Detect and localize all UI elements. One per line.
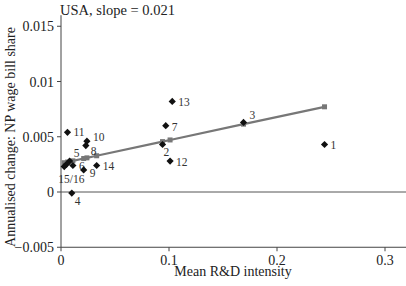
y-tick-label: 0.01 <box>30 75 55 90</box>
data-point-label: 7 <box>172 121 178 133</box>
data-point-label: 14 <box>103 160 115 172</box>
data-point-label: 4 <box>75 195 81 207</box>
data-point-label: 2 <box>164 146 170 158</box>
plot-area: −0.00500.0050.010.01500.10.20.3123456789… <box>0 0 406 286</box>
y-tick-label: 0.015 <box>23 19 55 34</box>
fitted-square-marker <box>322 104 327 109</box>
data-point-label: 10 <box>93 131 105 143</box>
y-tick-label: 0.005 <box>23 130 55 145</box>
data-point-diamond <box>321 141 328 148</box>
data-point-diamond <box>64 129 71 136</box>
x-axis-label: Mean R&D intensity <box>60 264 406 280</box>
y-tick-label: −0.005 <box>15 240 54 255</box>
fitted-square-marker <box>84 155 89 160</box>
data-point-label: 9 <box>90 167 96 179</box>
data-point-label: 3 <box>250 109 256 121</box>
chart-title: USA, slope = 0.021 <box>60 2 175 19</box>
y-tick-label: 0 <box>47 185 54 200</box>
data-point-diamond <box>162 122 169 129</box>
data-point-label: 13 <box>178 96 190 108</box>
fitted-square-marker <box>168 137 173 142</box>
data-point-diamond <box>169 98 176 105</box>
y-axis-label: Annualised change: NP wage bill share <box>3 27 19 247</box>
scatter-chart: −0.00500.0050.010.01500.10.20.3123456789… <box>0 0 406 286</box>
data-point-diamond <box>166 157 173 164</box>
data-point-label: 8 <box>91 145 97 157</box>
data-point-label: 12 <box>176 156 188 168</box>
data-point-label: 1 <box>331 139 337 151</box>
data-point-label: 11 <box>73 126 84 138</box>
data-point-label: 5 <box>74 147 80 159</box>
data-point-label: 15/16 <box>58 173 84 185</box>
